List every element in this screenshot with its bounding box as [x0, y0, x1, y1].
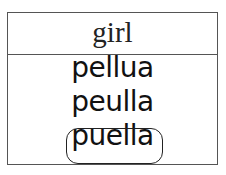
selection-circle — [66, 128, 163, 164]
option-pellua[interactable]: pellua — [8, 53, 217, 83]
option-peulla[interactable]: peulla — [8, 87, 217, 117]
question-card: girl pellua peulla puella — [7, 12, 218, 165]
prompt-word: girl — [8, 13, 217, 55]
